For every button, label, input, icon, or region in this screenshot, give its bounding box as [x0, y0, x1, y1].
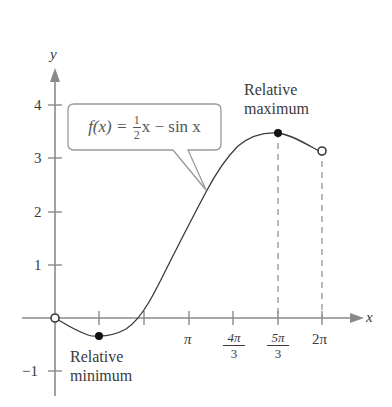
x-tick-5pi-3: 5π 3: [267, 331, 289, 360]
y-axis-label: y: [50, 47, 57, 62]
y-tick-neg1: −1: [22, 364, 38, 379]
callout-rhs: x − sin x: [142, 117, 201, 137]
callout-lhs: f(x) =: [88, 117, 132, 137]
y-tick-2: 2: [34, 205, 42, 220]
plot-canvas: [0, 0, 392, 407]
x-axis-label: x: [366, 310, 373, 325]
y-axis-arrow-icon: [50, 68, 60, 82]
x-tick-2pi: 2π: [312, 332, 327, 347]
relative-maximum-label: Relative maximum: [244, 80, 309, 118]
callout-fraction: 1 2: [133, 114, 141, 141]
relative-minimum-point: [95, 332, 103, 340]
open-endpoint-2pi: [318, 147, 326, 155]
relative-minimum-label: Relative minimum: [70, 347, 132, 385]
relative-maximum-point: [274, 129, 282, 137]
x-tick-pi: π: [184, 332, 192, 347]
y-tick-3: 3: [34, 151, 42, 166]
x-axis-arrow-icon: [350, 313, 364, 323]
dashed-guides: [278, 132, 322, 318]
function-callout: f(x) = 1 2 x − sin x: [68, 104, 221, 150]
open-endpoint-origin: [51, 314, 59, 322]
y-tick-1: 1: [34, 258, 42, 273]
x-tick-4pi-3: 4π 3: [223, 331, 245, 360]
y-tick-4: 4: [34, 98, 42, 113]
